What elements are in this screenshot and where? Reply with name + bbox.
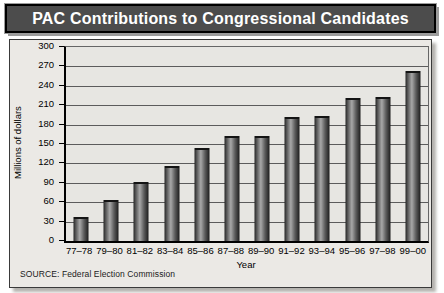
y-axis-tick-label: 150 bbox=[38, 138, 54, 148]
y-axis-tick-label: 270 bbox=[38, 61, 54, 71]
bar bbox=[134, 182, 149, 241]
source-note: SOURCE: Federal Election Commission bbox=[20, 269, 175, 279]
chart-title-bar: PAC Contributions to Congressional Candi… bbox=[5, 4, 436, 33]
bar-slot bbox=[126, 47, 156, 241]
bar bbox=[405, 71, 420, 241]
bar-slot bbox=[398, 47, 428, 241]
y-axis-tick bbox=[59, 104, 64, 105]
bar bbox=[285, 117, 300, 241]
y-axis-tick-label: 180 bbox=[38, 119, 54, 129]
y-axis-tick-label: 210 bbox=[38, 99, 54, 109]
bar bbox=[255, 136, 270, 241]
bar-slot bbox=[307, 47, 337, 241]
y-axis-tick bbox=[59, 240, 64, 241]
x-axis-tick-label: 95–96 bbox=[337, 245, 367, 256]
y-axis-tick bbox=[59, 143, 64, 144]
bar-slot bbox=[96, 47, 126, 241]
y-axis-tick-label: 0 bbox=[49, 235, 54, 245]
x-axis-tick-label: 89–90 bbox=[246, 245, 276, 256]
x-axis-tick-label: 83–84 bbox=[155, 245, 185, 256]
y-axis-tick bbox=[59, 162, 64, 163]
bar-slot bbox=[247, 47, 277, 241]
x-axis-tick-label: 79–80 bbox=[94, 245, 124, 256]
chart-card: Millions of dollars 03060901201501802102… bbox=[9, 39, 432, 288]
bar bbox=[194, 148, 209, 241]
y-axis-tick bbox=[59, 85, 64, 86]
y-axis-tick bbox=[59, 46, 64, 47]
bar-slot bbox=[187, 47, 217, 241]
y-axis-tick-label: 240 bbox=[38, 80, 54, 90]
page-title: PAC Contributions to Congressional Candi… bbox=[32, 10, 409, 28]
bar-slot bbox=[368, 47, 398, 241]
x-axis-tick-label: 81–82 bbox=[125, 245, 155, 256]
y-axis-tick-label: 300 bbox=[38, 41, 54, 51]
bar bbox=[345, 98, 360, 241]
x-axis-tick-label: 99–00 bbox=[398, 245, 428, 256]
bar bbox=[104, 200, 119, 241]
y-axis-tick bbox=[59, 201, 64, 202]
bar-series bbox=[66, 47, 428, 241]
y-axis-tick bbox=[59, 65, 64, 66]
bar-slot bbox=[338, 47, 368, 241]
y-axis-tick-label: 120 bbox=[38, 158, 54, 168]
x-axis-labels: 77–7879–8081–8283–8485–8687–8889–9091–92… bbox=[64, 245, 428, 256]
bar-slot bbox=[277, 47, 307, 241]
bar bbox=[74, 217, 89, 241]
y-axis-labels: 0306090120150180210240270300 bbox=[10, 46, 56, 240]
y-axis-tick-label: 60 bbox=[43, 196, 54, 206]
bar-slot bbox=[217, 47, 247, 241]
x-axis-tick-label: 85–86 bbox=[185, 245, 215, 256]
plot-area bbox=[64, 46, 429, 243]
bar bbox=[375, 97, 390, 241]
x-axis-tick-label: 91–92 bbox=[276, 245, 306, 256]
bar-slot bbox=[66, 47, 96, 241]
bar bbox=[164, 166, 179, 241]
bar-slot bbox=[157, 47, 187, 241]
y-axis-tick-label: 90 bbox=[43, 177, 54, 187]
y-axis-tick bbox=[59, 124, 64, 125]
y-axis-tick bbox=[59, 182, 64, 183]
bar bbox=[315, 116, 330, 241]
y-axis-tick-label: 30 bbox=[43, 216, 54, 226]
x-axis-tick-label: 97–98 bbox=[367, 245, 397, 256]
bar bbox=[224, 136, 239, 241]
x-axis-tick-label: 87–88 bbox=[216, 245, 246, 256]
y-axis-tick bbox=[59, 221, 64, 222]
x-axis-tick-label: 93–94 bbox=[307, 245, 337, 256]
x-axis-tick-label: 77–78 bbox=[64, 245, 94, 256]
